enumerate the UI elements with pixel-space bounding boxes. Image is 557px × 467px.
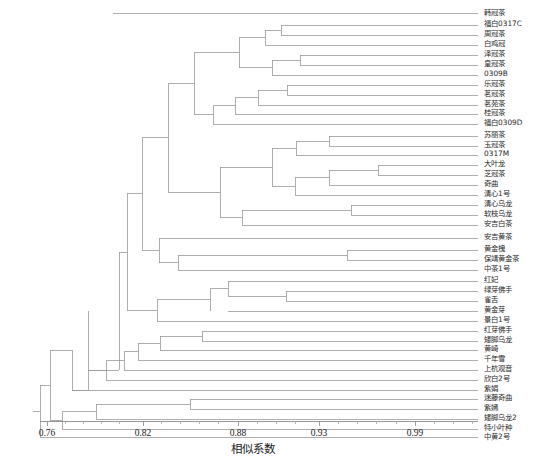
leaf-label: 皇冠茶 [484,59,505,68]
dendrogram-canvas [0,0,557,467]
leaf-label: 泽冠茶 [484,49,505,58]
leaf-label: 上杭观音 [484,364,512,373]
leaf-label: 茗苑茶 [484,99,505,108]
leaf-label: 福白0317C [484,19,522,28]
leaf-label: 乐冠茶 [484,79,505,88]
leaf-label: 福白0309D [484,118,523,127]
leaf-label: 矮脚乌龙 [484,335,512,344]
leaf-label: 红芽佛手 [484,325,512,334]
leaf-label: 白鸡冠 [484,39,505,48]
leaf-label: 软枝乌龙 [484,209,512,218]
leaf-label: 雀舌 [484,295,498,304]
leaf-label: 景白1号 [484,315,510,324]
leaf-label: 奇曲 [484,179,498,188]
leaf-label: 茗冠茶 [484,89,505,98]
leaf-label: 黄金槐 [484,244,505,253]
leaf-label: 清心1号 [484,189,510,198]
leaf-label: 红妃 [484,275,498,284]
leaf-label: 中黄2号 [484,432,510,441]
x-tick-label: 0.93 [311,428,328,438]
leaf-label: 紫嫣 [484,403,498,412]
leaf-label: 0309B [484,69,508,78]
leaf-label: 韩冠茶 [484,8,505,17]
leaf-label: 芝冠茶 [484,169,505,178]
leaf-label: 周冠茶 [484,29,505,38]
leaf-label: 绿芽佛手 [484,285,512,294]
leaf-label: 苏丽茶 [484,130,505,139]
x-tick-label: 0.88 [230,428,247,438]
x-tick-label: 0.76 [39,428,56,438]
tree-branches [33,13,478,437]
leaf-label: 矮脚乌龙2 [484,413,517,422]
leaf-label: 黄崎 [484,344,498,353]
leaf-label: 欣白2号 [484,374,510,383]
leaf-label: 安吉黄茶 [484,232,512,241]
dendrogram-figure: 韩冠茶 福白0317C 周冠茶 白鸡冠 泽冠茶 皇冠茶 0309B 乐冠茶 茗冠… [0,0,557,467]
leaf-label: 特小叶种 [484,423,512,432]
leaf-label: 黄金芽 [484,305,505,314]
leaf-label: 千年雪 [484,354,505,363]
leaf-label: 大叶龙 [484,159,505,168]
x-tick-label: 0.99 [407,428,424,438]
leaf-label: 0317M [484,149,509,158]
x-tick-label: 0.82 [135,428,152,438]
leaf-label: 紫娟 [484,384,498,393]
leaf-label: 玉冠茶 [484,140,505,149]
leaf-label: 清心乌龙 [484,199,512,208]
leaf-label: 中茶1号 [484,264,510,273]
x-axis-title: 相似系数 [231,440,275,456]
leaf-label: 保靖黄金茶 [484,254,519,263]
leaf-label: 迷藤奇曲 [484,393,512,402]
leaf-label: 桂冠茶 [484,108,505,117]
leaf-label: 安吉白茶 [484,219,512,228]
